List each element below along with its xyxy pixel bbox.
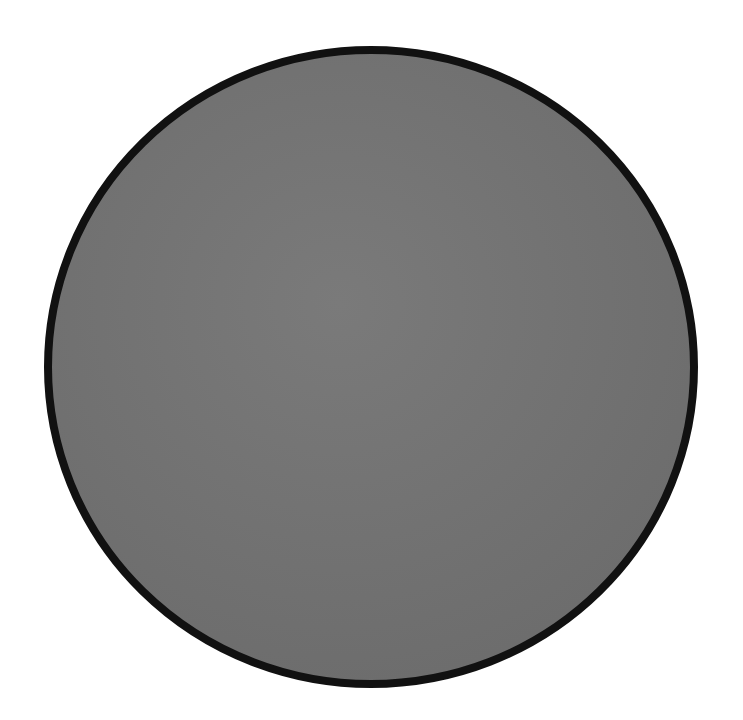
drawing-canvas [0, 0, 743, 720]
gray-circle [48, 50, 694, 684]
